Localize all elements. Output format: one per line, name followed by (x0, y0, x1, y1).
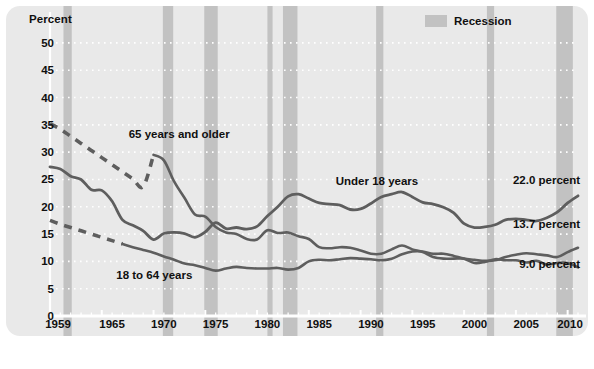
x-tick-label-2000: 2000 (462, 318, 488, 330)
x-tick-label-1959: 1959 (45, 318, 71, 330)
series-label-under-18: Under 18 years (336, 175, 418, 187)
y-tick-label-30: 30 (28, 146, 54, 158)
recession-swatch-icon (425, 15, 447, 27)
y-axis-ticks: 05101520253035404550 (6, 6, 54, 336)
x-tick-label-2010: 2010 (557, 318, 583, 330)
y-tick-label-20: 20 (28, 201, 54, 213)
y-tick-label-40: 40 (28, 92, 54, 104)
recession-band-6 (487, 6, 494, 336)
y-tick-label-35: 35 (28, 119, 54, 131)
recession-bands-group (63, 6, 572, 336)
poverty-rate-chart-card: Percent 05101520253035404550 19591965197… (6, 6, 588, 336)
series-label-65-and-older: 65 years and older (129, 128, 230, 140)
x-tick-label-1980: 1980 (255, 318, 281, 330)
x-tick-label-1965: 1965 (99, 318, 125, 330)
x-tick-label-1990: 1990 (358, 318, 384, 330)
recession-band-3 (267, 6, 272, 336)
data-series-group (50, 124, 578, 271)
y-tick-label-15: 15 (28, 228, 54, 240)
recession-band-4 (283, 6, 297, 336)
y-tick-label-10: 10 (28, 255, 54, 267)
chart-plot-area (6, 6, 588, 336)
end-value-18-to-64: 13.7 percent (513, 218, 580, 230)
legend: Recession (425, 15, 512, 27)
end-value-under-18: 22.0 percent (513, 174, 580, 186)
x-tick-label-1985: 1985 (306, 318, 332, 330)
recession-band-2 (204, 6, 217, 336)
legend-label-recession: Recession (454, 15, 512, 27)
series-label-18-to-64: 18 to 64 years (116, 269, 192, 281)
gridlines-group (50, 43, 578, 289)
y-tick-label-5: 5 (28, 283, 54, 295)
x-tick-label-2005: 2005 (513, 318, 539, 330)
x-tick-label-1995: 1995 (410, 318, 436, 330)
x-tick-label-1975: 1975 (203, 318, 229, 330)
x-tick-label-1970: 1970 (151, 318, 177, 330)
series-18-to-64-years-dashed (50, 220, 122, 243)
recession-band-7 (556, 6, 573, 336)
y-tick-label-45: 45 (28, 64, 54, 76)
y-tick-label-25: 25 (28, 173, 54, 185)
recession-band-5 (376, 6, 383, 336)
end-value-65-and-older: 9.0 percent (519, 258, 580, 270)
y-tick-label-50: 50 (28, 37, 54, 49)
